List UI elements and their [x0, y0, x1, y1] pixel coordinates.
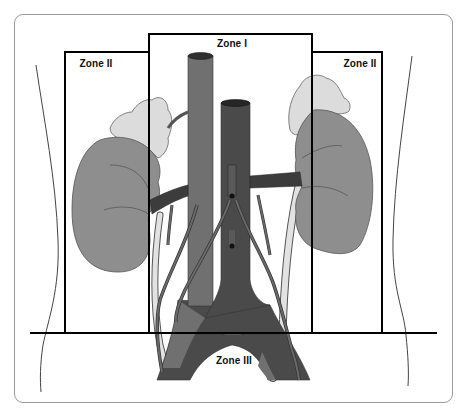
zone-3-label: Zone III	[216, 355, 252, 366]
aorta-opening	[188, 53, 213, 60]
zone-2-left-label: Zone II	[80, 58, 113, 69]
body-outline-left	[36, 65, 58, 392]
right-renal-artery-stub	[228, 165, 236, 196]
zone-1-label: Zone I	[217, 38, 247, 49]
ivc-opening	[221, 100, 250, 107]
aorta	[188, 56, 213, 306]
vessel-origin-dot	[230, 194, 235, 199]
vessel-origin-dot	[230, 244, 235, 249]
zone-2-right-label: Zone II	[344, 58, 377, 69]
body-outline-right	[393, 56, 412, 386]
left-kidney	[72, 137, 160, 272]
gonadal-vessel-fill	[258, 195, 270, 255]
right-kidney	[295, 110, 373, 254]
right-renal-vessel	[250, 172, 302, 188]
